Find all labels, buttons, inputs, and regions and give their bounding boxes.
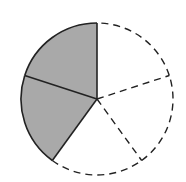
fraction-circle-svg (0, 0, 186, 182)
fraction-circle-diagram (0, 0, 186, 182)
